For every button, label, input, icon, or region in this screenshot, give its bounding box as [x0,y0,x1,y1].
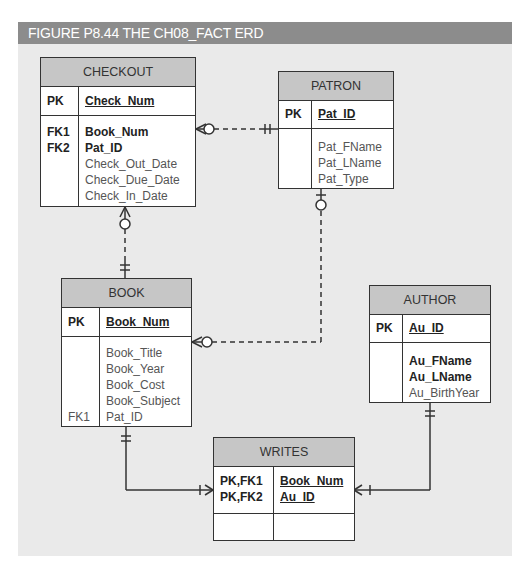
pk-attr: Book_Num [280,473,348,489]
pk-attr: Book_Num [100,308,191,336]
attr: Pat_Type [318,171,387,187]
attr: Pat_ID [85,140,189,156]
attr: Check_Due_Date [85,172,189,188]
entity-writes[interactable]: WRITES PK,FK1 PK,FK2 Book_Num Au_ID [213,437,355,541]
pk-fk-label: PK,FK2 [220,489,267,505]
entity-author[interactable]: AUTHOR PK Au_ID Au_FName Au_LName Au_Bir… [369,285,491,403]
entity-checkout[interactable]: CHECKOUT PK Check_Num FK1 FK2 Book_Num P… [40,57,196,207]
entity-patron[interactable]: PATRON PK Pat_ID Pat_FName Pat_LName Pat… [278,71,394,189]
entity-name: CHECKOUT [41,58,195,87]
pk-fk-label: PK,FK1 [220,473,267,489]
entity-book[interactable]: BOOK PK Book_Num FK1 Book_Title Book_Yea… [61,278,192,427]
attr: Pat_ID [106,409,185,425]
pk-attr: Au_ID [280,489,348,505]
attr: Book_Year [106,361,185,377]
entity-name: AUTHOR [370,286,490,315]
fk-label: FK1 [47,124,72,140]
rel-book-patron [192,189,326,347]
pk-label: PK [62,308,100,336]
attr: Au_FName [409,353,484,369]
pk-attr: Check_Num [79,87,195,115]
attr: Pat_FName [318,139,387,155]
rel-author-writes [354,403,435,495]
attr: Book_Subject [106,393,185,409]
entity-name: WRITES [214,438,354,467]
pk-label: PK [279,101,312,128]
pk-attr: Au_ID [403,315,490,342]
attr: Check_Out_Date [85,156,189,172]
entity-name: BOOK [62,279,191,308]
attr: Book_Num [85,124,189,140]
attr: Check_In_Date [85,188,189,204]
attr: Au_BirthYear [409,385,484,401]
pk-attr: Pat_ID [312,101,393,128]
fk-label: FK2 [47,140,72,156]
pk-label: PK [41,87,79,115]
rel-checkout-patron [196,124,278,134]
rel-book-writes [121,427,213,495]
attr: Book_Cost [106,377,185,393]
rel-checkout-book [120,207,130,278]
attr: Pat_LName [318,155,387,171]
attr: Book_Title [106,345,185,361]
attr: Au_LName [409,369,484,385]
entity-name: PATRON [279,72,393,101]
pk-label: PK [370,315,403,342]
fk-label: FK1 [68,409,93,425]
